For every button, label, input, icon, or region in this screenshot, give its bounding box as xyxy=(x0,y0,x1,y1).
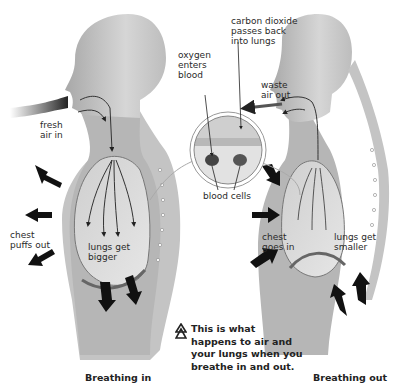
label-oxygen-enters-blood: oxygen enters blood xyxy=(178,50,211,80)
figure-breathing-out xyxy=(246,14,389,355)
caption-breathing-in: Breathing in xyxy=(85,372,151,383)
label-lungs-get-smaller: lungs get smaller xyxy=(334,232,376,252)
label-lungs-get-bigger: lungs get bigger xyxy=(88,242,130,262)
label-chest-puffs-out: chest puffs out xyxy=(10,230,50,250)
figure-breathing-in xyxy=(10,14,180,360)
caption-breathing-out: Breathing out xyxy=(313,372,387,383)
label-fresh-air-in: fresh air in xyxy=(40,120,63,140)
label-waste-air-out: waste air out xyxy=(261,80,290,100)
explanation-note: This is what happens to air and your lun… xyxy=(191,323,303,373)
label-chest-goes-in: chest goes in xyxy=(262,232,295,252)
label-carbon-dioxide: carbon dioxide passes back into lungs xyxy=(231,16,297,46)
triangle-note-icon xyxy=(175,323,187,339)
label-blood-cells: blood cells xyxy=(203,191,251,201)
